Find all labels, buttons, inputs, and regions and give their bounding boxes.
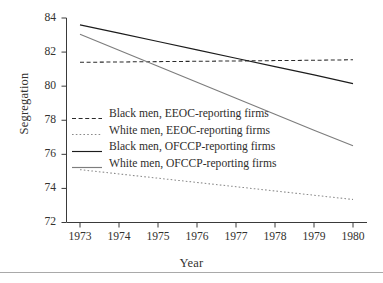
- bottom-divider: [0, 272, 383, 273]
- x-tick-label: 1980: [332, 230, 374, 243]
- y-tick-label: 80: [26, 79, 56, 92]
- legend-label: Black men, EEOC-reporting firms: [109, 106, 269, 121]
- legend-line-sample: [72, 142, 102, 152]
- y-tick-label: 82: [26, 45, 56, 58]
- x-tick-label: 1979: [293, 230, 335, 243]
- figure-container: Segregation Year 72747678808284 19731974…: [0, 0, 383, 283]
- y-axis-ticks: [62, 18, 67, 223]
- series-line-2: [80, 25, 353, 84]
- legend-label: Black men, OFCCP-reporting firms: [109, 139, 275, 154]
- y-tick-label: 78: [26, 113, 56, 126]
- x-tick-label: 1977: [215, 230, 257, 243]
- x-tick-label: 1973: [59, 230, 101, 243]
- y-tick-label: 84: [26, 11, 56, 24]
- y-tick-label: 76: [26, 147, 56, 160]
- legend-label: White men, OFCCP-reporting firms: [109, 156, 276, 171]
- series-line-0: [80, 60, 353, 63]
- x-tick-label: 1974: [98, 230, 140, 243]
- legend-item: White men, OFCCP-reporting firms: [72, 156, 276, 171]
- legend-item: White men, EEOC-reporting firms: [72, 123, 270, 138]
- series-line-1: [80, 170, 353, 200]
- y-axis-title: Segregation: [17, 54, 32, 154]
- x-tick-label: 1976: [176, 230, 218, 243]
- x-tick-label: 1975: [137, 230, 179, 243]
- legend-item: Black men, OFCCP-reporting firms: [72, 139, 275, 154]
- legend-line-sample: [72, 109, 102, 119]
- legend-item: Black men, EEOC-reporting firms: [72, 106, 269, 121]
- y-tick-label: 74: [26, 181, 56, 194]
- legend-line-sample: [72, 158, 102, 168]
- x-axis-ticks: [80, 223, 353, 228]
- legend-line-sample: [72, 125, 102, 135]
- x-axis-title: Year: [0, 256, 383, 271]
- x-tick-label: 1978: [254, 230, 296, 243]
- legend-label: White men, EEOC-reporting firms: [109, 123, 270, 138]
- y-tick-label: 72: [26, 215, 56, 228]
